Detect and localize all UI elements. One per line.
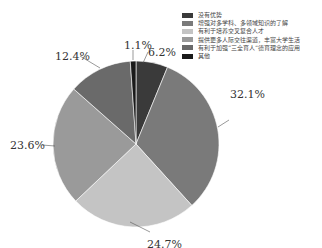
legend-item: 没有优势 [182, 11, 300, 19]
legend-label: 其他 [198, 52, 210, 60]
legend-swatch [182, 29, 193, 34]
chart-legend: 没有优势增强对多学科、多领域知识的了解有利于培养交叉复合人才提供更多人际交往渠道… [182, 11, 300, 60]
legend-item: 其他 [182, 52, 300, 60]
leader-line [218, 120, 229, 127]
legend-swatch [182, 45, 193, 50]
pie-slices [53, 61, 219, 227]
percentage-label: 23.6% [10, 139, 45, 152]
legend-label: 有利于加强“三全育人”德育理念的应用 [198, 44, 300, 52]
percentage-label: 12.4% [55, 50, 90, 63]
percentage-label: 1.1% [124, 39, 152, 52]
legend-item: 增强对多学科、多领域知识的了解 [182, 19, 300, 27]
legend-label: 增强对多学科、多领域知识的了解 [198, 19, 288, 27]
legend-label: 有利于培养交叉复合人才 [198, 27, 264, 35]
percentage-label: 6.2% [148, 46, 176, 59]
legend-swatch [182, 54, 193, 59]
legend-item: 有利于加强“三全育人”德育理念的应用 [182, 44, 300, 52]
legend-label: 提供更多人际交往渠道，丰富大学生活 [198, 36, 300, 44]
legend-item: 有利于培养交叉复合人才 [182, 27, 300, 35]
percentage-label: 32.1% [230, 88, 265, 101]
legend-swatch [182, 13, 193, 18]
legend-swatch [182, 37, 193, 42]
legend-label: 没有优势 [198, 11, 222, 19]
legend-swatch [182, 21, 193, 26]
percentage-label: 24.7% [147, 238, 182, 248]
legend-item: 提供更多人际交往渠道，丰富大学生活 [182, 36, 300, 44]
